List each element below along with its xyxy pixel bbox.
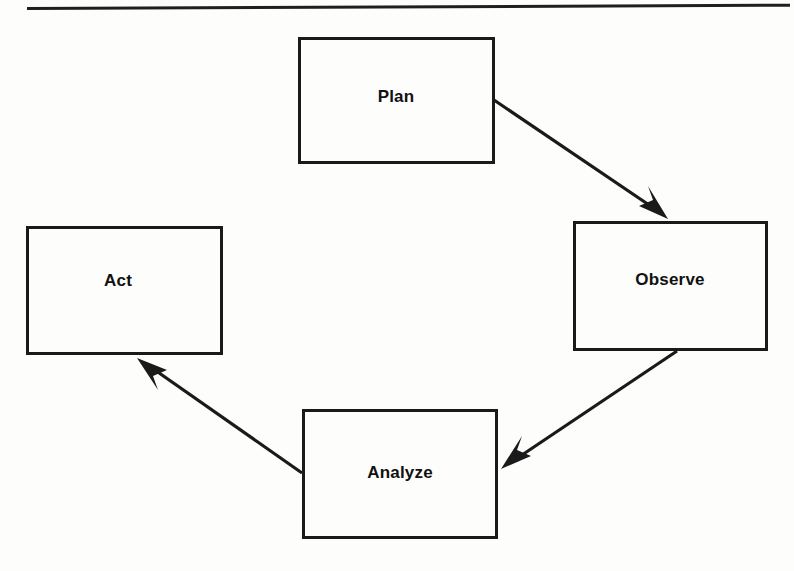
arrow-analyze-to-act	[137, 358, 302, 473]
arrow-plan-to-observe	[494, 100, 668, 219]
diagram-page: Plan Observe Analyze Act	[0, 0, 794, 571]
arrow-observe-to-analyze	[501, 351, 677, 469]
node-plan-label: Plan	[378, 87, 415, 107]
node-act-label: Act	[104, 271, 132, 291]
node-observe-label: Observe	[635, 270, 704, 290]
node-analyze-label: Analyze	[367, 463, 433, 483]
